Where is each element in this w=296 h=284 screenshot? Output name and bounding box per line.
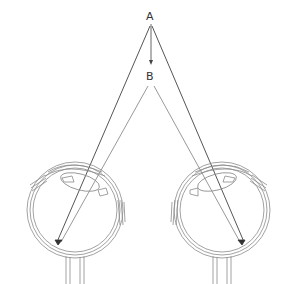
right-eye [171,162,270,284]
arrow-a-to-b [149,24,153,65]
point-a-label: A [146,10,154,23]
point-b-label: B [146,70,154,83]
left-eye [27,162,125,284]
rays-from-a [57,26,244,242]
binocular-diagram: A B [0,0,296,284]
